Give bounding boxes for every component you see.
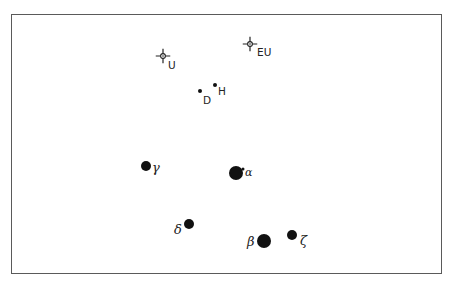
star-beta [257, 234, 271, 248]
star-label-gamma: γ [152, 161, 160, 174]
star-label-delta: δ [174, 223, 182, 236]
marker-label-u: U [168, 60, 176, 71]
object-label-d: D [203, 95, 211, 106]
marker-label-eu: EU [257, 47, 271, 58]
star-label-beta: β [247, 235, 255, 248]
star-zeta [287, 230, 297, 240]
object-d-dot [198, 89, 202, 93]
object-h-dot [213, 83, 217, 87]
star-label-zeta: ζ [300, 234, 307, 247]
star-delta [184, 219, 194, 229]
star-gamma [141, 161, 151, 171]
object-label-h: H [218, 86, 226, 97]
chart-frame [11, 14, 442, 274]
crosshair-marker-eu-icon [243, 37, 258, 52]
star-label-alpha: α [245, 167, 252, 178]
